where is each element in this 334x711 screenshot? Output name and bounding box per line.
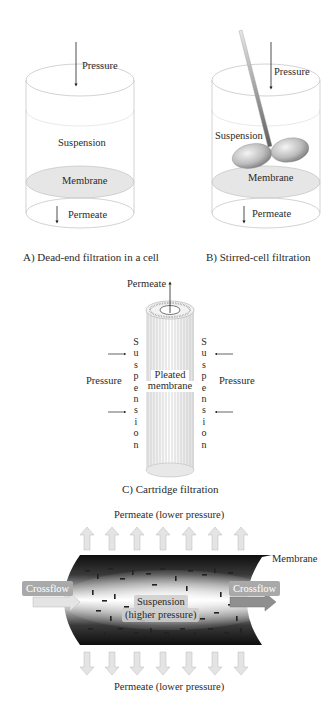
panel-b-membrane-label: Membrane — [248, 173, 293, 184]
panel-a-caption: A) Dead-end filtration in a cell — [23, 252, 159, 263]
panel-c-membrane-label-line2: membrane — [146, 381, 194, 392]
permeate-arrows-bottom — [80, 652, 248, 675]
panel-a-permeate-label: Permeate — [68, 210, 107, 221]
panel-d-permeate-bottom-label: Permeate (lower pressure) — [114, 682, 224, 693]
panel-d-crossflow-out-label: Crossflow — [229, 581, 280, 596]
panel-b-caption: B) Stirred-cell filtration — [206, 252, 310, 263]
panel-d-membrane-label: Membrane — [272, 554, 317, 565]
panel-a-membrane-label: Membrane — [62, 176, 107, 187]
panel-b-cylinder — [212, 30, 320, 228]
panel-b-pressure-label: Pressure — [274, 67, 310, 78]
panel-c-permeate-label: Permeate — [127, 279, 166, 290]
panel-d-permeate-top-label: Permeate (lower pressure) — [114, 510, 224, 521]
panel-c-pressure-right-label: Pressure — [219, 376, 255, 387]
stirrer-paddle-right — [269, 135, 311, 165]
panel-d-crossflow-in-label: Crossflow — [22, 581, 73, 596]
panel-c-suspension-left-label: Suspension — [131, 336, 141, 450]
panel-c-caption: C) Cartridge filtration — [122, 484, 219, 495]
panel-c-pressure-left-label: Pressure — [86, 376, 122, 387]
panel-b-permeate-label: Permeate — [252, 209, 291, 220]
permeate-arrows-top — [80, 527, 248, 550]
panel-d-suspension-label-line2: (higher pressure) — [122, 608, 199, 622]
panel-c-suspension-right-label: Suspension — [199, 336, 209, 450]
panel-d-suspension-label-line1: Suspension — [134, 595, 188, 609]
panel-a-pressure-label: Pressure — [82, 61, 118, 72]
panel-b-suspension-label: Suspension — [215, 131, 263, 142]
panel-c-membrane-label-line1: Pleated — [151, 370, 189, 381]
panel-a-suspension-label: Suspension — [58, 138, 106, 149]
